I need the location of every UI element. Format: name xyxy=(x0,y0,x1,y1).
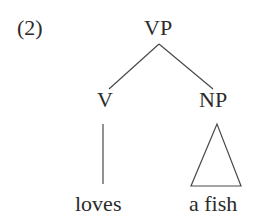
example-number: (2) xyxy=(17,17,43,39)
np-triangle xyxy=(191,124,241,186)
node-v: V xyxy=(97,89,113,111)
terminal-a-fish: a fish xyxy=(189,193,237,215)
node-vp: VP xyxy=(144,17,172,39)
node-np: NP xyxy=(199,89,227,111)
terminal-loves: loves xyxy=(75,193,121,215)
edge-vp-v xyxy=(109,44,159,89)
edge-vp-np xyxy=(159,44,213,89)
